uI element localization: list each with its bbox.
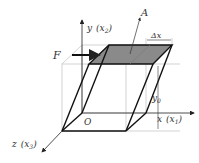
diagram-canvas: F A y(x2) x(x1) z(x3) O Δx y0	[0, 0, 199, 163]
x-axis-label: x(x1)	[157, 114, 183, 125]
delta-x-label: Δx	[150, 31, 162, 40]
origin-label: O	[84, 117, 92, 127]
area-label: A	[140, 7, 148, 18]
z-axis	[42, 131, 62, 152]
y0-label: y0	[151, 93, 161, 104]
force-label: F	[52, 49, 61, 62]
shear-diagram: F A y(x2) x(x1) z(x3) O Δx y0	[0, 0, 199, 163]
axes	[42, 20, 194, 152]
y-axis-label: y(x2)	[86, 23, 113, 34]
z-axis-label: z(x3)	[11, 139, 37, 150]
shaded-area-face	[89, 45, 172, 64]
